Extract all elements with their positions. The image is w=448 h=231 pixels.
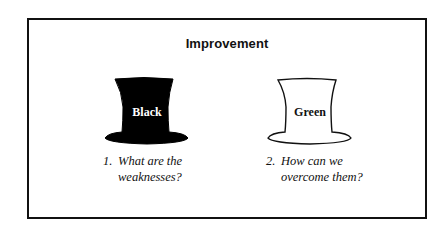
diagram-title: Improvement	[29, 36, 425, 51]
caption-line-2: overcome them?	[266, 169, 363, 185]
black-hat: Black	[101, 77, 193, 147]
caption-line-2: weaknesses?	[103, 169, 182, 185]
caption-text: What are the	[118, 154, 182, 168]
caption-line-1: 1.What are the	[103, 153, 182, 169]
green-hat: Green	[264, 77, 356, 147]
caption-text: How can we	[281, 154, 343, 168]
caption-black-hat: 1.What are the weaknesses?	[103, 153, 182, 185]
diagram-frame: Improvement Black Green 1.What are the w…	[27, 18, 427, 219]
caption-green-hat: 2.How can we overcome them?	[266, 153, 363, 185]
caption-number: 2.	[266, 153, 281, 169]
hat-label-green: Green	[264, 105, 356, 120]
caption-number: 1.	[103, 153, 118, 169]
hat-label-black: Black	[101, 105, 193, 120]
caption-line-1: 2.How can we	[266, 153, 363, 169]
